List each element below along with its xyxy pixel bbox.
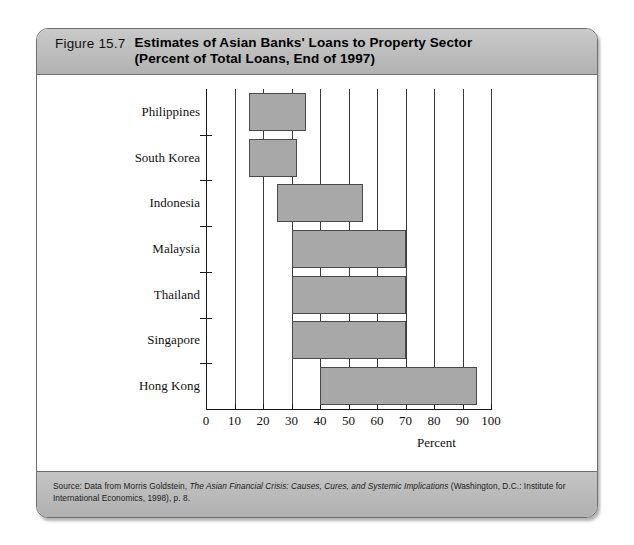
bar-philippines [249, 93, 306, 131]
x-tick-label-100: 100 [471, 413, 511, 429]
figure-header: Figure 15.7 Estimates of Asian Banks' Lo… [37, 29, 597, 75]
figure-title: Estimates of Asian Banks' Loans to Prope… [135, 35, 473, 67]
bar-malaysia [292, 230, 406, 268]
source-title: The Asian Financial Crisis: Causes, Cure… [189, 481, 448, 491]
figure-title-line1: Estimates of Asian Banks' Loans to Prope… [135, 35, 473, 51]
x-axis-title: Percent [417, 435, 456, 451]
bar-singapore [292, 321, 406, 359]
figure-number: Figure 15.7 [55, 35, 126, 51]
figure-title-line2: (Percent of Total Loans, End of 1997) [135, 51, 473, 67]
source-note: Source: Data from Morris Goldstein, The … [53, 481, 581, 504]
source-band: Source: Data from Morris Goldstein, The … [37, 471, 597, 517]
figure-card: Figure 15.7 Estimates of Asian Banks' Lo… [36, 28, 598, 518]
plot-area: PhilippinesSouth KoreaIndonesiaMalaysiaT… [37, 75, 597, 473]
bar-indonesia [277, 184, 363, 222]
bar-south-korea [249, 139, 297, 177]
bar-thailand [292, 276, 406, 314]
bar-hong-kong [320, 367, 477, 405]
source-prefix: Source: Data from Morris Goldstein, [53, 481, 189, 491]
